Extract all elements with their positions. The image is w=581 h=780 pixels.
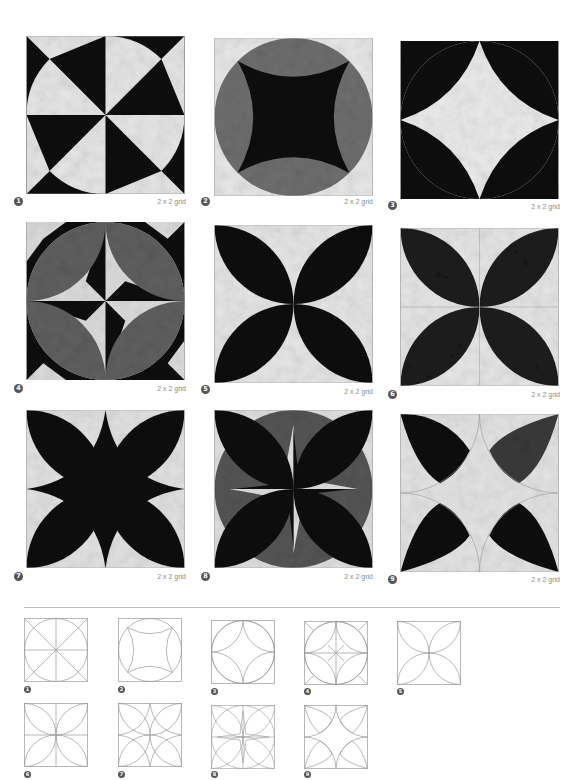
quilt-block-6 <box>398 228 561 386</box>
circle-concave-square-image <box>212 38 375 196</box>
pinwheel-circle-image <box>24 36 187 194</box>
section-divider <box>24 607 560 608</box>
block-number-badge: 7 <box>14 572 23 581</box>
circle-star-image <box>398 41 561 199</box>
block-number-badge: 1 <box>14 197 23 206</box>
quilt-block-4 <box>24 222 187 380</box>
diagram-number-badge: 9 <box>304 771 311 778</box>
line-diagram-8 <box>211 705 275 769</box>
quilt-block-9 <box>398 414 561 572</box>
quilt-block-5 <box>212 225 375 383</box>
grid-size-label: 2 x 2 grid <box>480 391 560 398</box>
quilt-block-3 <box>398 41 561 199</box>
line-diagram-3 <box>211 620 275 684</box>
block-number-badge: 5 <box>201 385 210 394</box>
circle-petals-pinwheel-image <box>24 222 187 380</box>
diagram-number-badge: 1 <box>24 686 31 693</box>
line-diagram-2 <box>118 618 182 682</box>
block-number-badge: 2 <box>201 197 210 206</box>
line-diagram-5 <box>397 621 461 685</box>
block-number-badge: 6 <box>388 390 397 399</box>
line-diagram-1 <box>24 618 88 682</box>
diagram-number-badge: 3 <box>211 688 218 695</box>
four-petals-image <box>212 225 375 383</box>
grid-size-label: 2 x 2 grid <box>480 576 560 583</box>
circle-petals-star-image <box>212 410 375 568</box>
grid-size-label: 2 x 2 grid <box>293 573 373 580</box>
grid-size-label: 2 x 2 grid <box>106 573 186 580</box>
grid-size-label: 2 x 2 grid <box>106 198 186 205</box>
quilt-block-8 <box>212 410 375 568</box>
diagram-number-badge: 4 <box>304 688 311 695</box>
line-diagram-7 <box>118 703 182 767</box>
diagram-number-badge: 8 <box>211 771 218 778</box>
diagram-number-badge: 7 <box>118 771 125 778</box>
line-diagram-9 <box>304 705 368 769</box>
diagram-number-badge: 2 <box>118 686 125 693</box>
block-number-badge: 3 <box>388 201 397 210</box>
grid-size-label: 2 x 2 grid <box>293 388 373 395</box>
diagram-number-badge: 5 <box>397 688 404 695</box>
grid-size-label: 2 x 2 grid <box>106 385 186 392</box>
line-diagram-6 <box>24 703 88 767</box>
line-diagram-4 <box>304 621 368 685</box>
petals-star-image <box>24 410 187 568</box>
quilt-block-1 <box>24 36 187 194</box>
quilt-block-2 <box>212 38 375 196</box>
half-petals-corners-image <box>398 414 561 572</box>
grid-size-label: 2 x 2 grid <box>293 198 373 205</box>
quilt-block-7 <box>24 410 187 568</box>
block-number-badge: 9 <box>388 575 397 584</box>
block-number-badge: 4 <box>14 384 23 393</box>
block-number-badge: 8 <box>201 572 210 581</box>
four-petals-seamed-image <box>398 228 561 386</box>
diagram-number-badge: 6 <box>24 771 31 778</box>
grid-size-label: 2 x 2 grid <box>480 203 560 210</box>
